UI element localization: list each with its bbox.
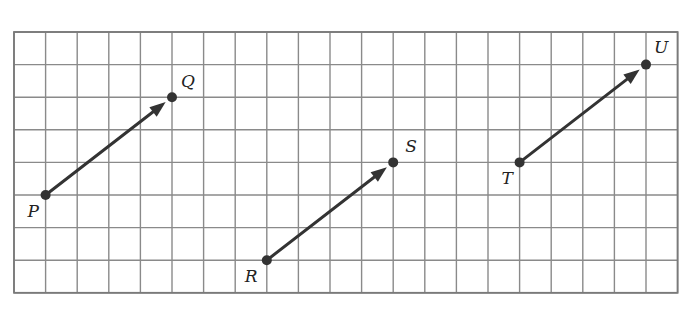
point-P	[41, 190, 51, 200]
point-U	[641, 60, 651, 70]
point-label-S: S	[405, 136, 417, 156]
point-label-U: U	[654, 37, 669, 57]
vectors-layer: PQRSTU	[27, 37, 669, 287]
point-Q	[167, 92, 177, 102]
vector-grid-diagram: PQRSTU	[0, 0, 687, 310]
vector-PQ: PQ	[27, 71, 195, 221]
vector-shaft	[267, 171, 382, 260]
point-label-R: R	[244, 266, 258, 286]
vector-shaft	[520, 73, 635, 162]
point-R	[262, 255, 272, 265]
point-label-Q: Q	[181, 71, 195, 91]
point-label-T: T	[502, 168, 515, 188]
vector-TU: TU	[502, 37, 669, 189]
point-S	[388, 157, 398, 167]
vector-shaft	[46, 106, 161, 195]
point-T	[515, 157, 525, 167]
point-label-P: P	[27, 201, 40, 221]
grid-paper	[14, 32, 678, 293]
